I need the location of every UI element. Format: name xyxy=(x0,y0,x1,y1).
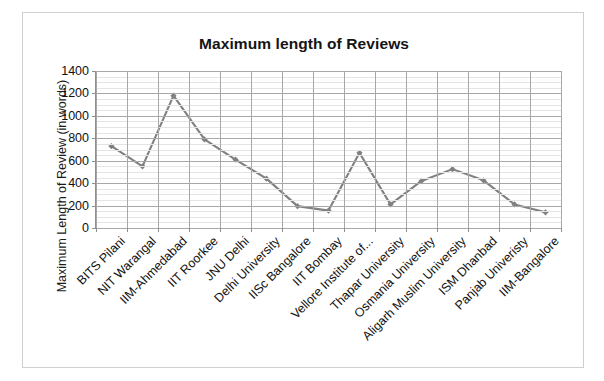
gridline-minor xyxy=(96,172,561,173)
x-axis-tick xyxy=(468,228,469,232)
gridline-minor xyxy=(96,211,561,212)
gridline-vertical xyxy=(561,71,562,228)
y-axis-label: 200 xyxy=(41,199,89,213)
y-axis-label: 400 xyxy=(41,176,89,190)
x-axis-tick xyxy=(437,228,438,232)
x-axis-tick xyxy=(251,228,252,232)
x-axis-tick xyxy=(282,228,283,232)
y-axis-label: 0 xyxy=(41,221,89,235)
y-axis-label: 600 xyxy=(41,154,89,168)
gridline-vertical xyxy=(313,71,314,228)
gridline-horizontal xyxy=(96,138,561,139)
x-axis-tick xyxy=(561,228,562,232)
gridline-vertical xyxy=(127,71,128,228)
x-axis-tick xyxy=(344,228,345,232)
gridline-vertical xyxy=(220,71,221,228)
x-axis-tick xyxy=(375,228,376,232)
gridline-horizontal xyxy=(96,228,561,229)
gridline-minor xyxy=(96,121,561,122)
gridline-minor xyxy=(96,77,561,78)
x-axis-tick xyxy=(96,228,97,232)
gridline-horizontal xyxy=(96,161,561,162)
y-axis-label: 1200 xyxy=(41,86,89,100)
x-axis-tick xyxy=(313,228,314,232)
gridline-minor xyxy=(96,133,561,134)
gridline-horizontal xyxy=(96,116,561,117)
gridline-minor xyxy=(96,189,561,190)
x-axis-tick xyxy=(220,228,221,232)
gridline-horizontal xyxy=(96,71,561,72)
gridline-vertical xyxy=(251,71,252,228)
gridline-horizontal xyxy=(96,206,561,207)
chart-container: Maximum length of Reviews Maximum Length… xyxy=(22,12,584,368)
x-axis-tick xyxy=(530,228,531,232)
gridline-horizontal xyxy=(96,93,561,94)
gridline-vertical xyxy=(375,71,376,228)
gridline-minor xyxy=(96,194,561,195)
gridline-minor xyxy=(96,217,561,218)
gridline-vertical xyxy=(158,71,159,228)
y-axis-label: 1400 xyxy=(41,64,89,78)
gridline-vertical xyxy=(406,71,407,228)
gridline-minor xyxy=(96,166,561,167)
gridline-minor xyxy=(96,178,561,179)
x-axis-tick xyxy=(189,228,190,232)
gridline-minor xyxy=(96,144,561,145)
gridline-minor xyxy=(96,155,561,156)
data-point-marker[interactable] xyxy=(542,209,548,215)
gridline-vertical xyxy=(499,71,500,228)
gridline-minor xyxy=(96,105,561,106)
gridline-minor xyxy=(96,200,561,201)
gridline-vertical xyxy=(468,71,469,228)
x-axis-labels: BITS PilaniNIT WarangalIIM-AhmedabadIIT … xyxy=(95,234,561,374)
plot-wrapper: 0200400600800100012001400 xyxy=(95,71,561,228)
x-axis-tick xyxy=(127,228,128,232)
x-axis-tick xyxy=(499,228,500,232)
gridline-minor xyxy=(96,222,561,223)
gridline-vertical xyxy=(282,71,283,228)
gridline-minor xyxy=(96,88,561,89)
x-axis-tick xyxy=(158,228,159,232)
gridline-minor xyxy=(96,150,561,151)
gridline-minor xyxy=(96,110,561,111)
chart-title: Maximum length of Reviews xyxy=(23,35,585,53)
gridline-vertical xyxy=(96,71,97,228)
gridline-vertical xyxy=(530,71,531,228)
gridline-minor xyxy=(96,127,561,128)
gridline-vertical xyxy=(437,71,438,228)
gridline-horizontal xyxy=(96,183,561,184)
y-axis-label: 800 xyxy=(41,131,89,145)
gridline-minor xyxy=(96,82,561,83)
gridline-minor xyxy=(96,99,561,100)
gridline-vertical xyxy=(344,71,345,228)
x-axis-tick xyxy=(406,228,407,232)
y-axis-label: 1000 xyxy=(41,109,89,123)
gridline-vertical xyxy=(189,71,190,228)
plot-area: 0200400600800100012001400 xyxy=(95,71,561,228)
